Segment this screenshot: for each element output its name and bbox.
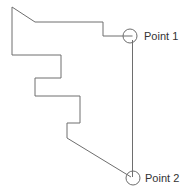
diagram-canvas	[0, 0, 186, 192]
point-1-label: Point 1	[144, 30, 178, 42]
point-2-label: Point 2	[145, 172, 179, 184]
outline-top	[12, 7, 124, 36]
outline-left-steps	[12, 7, 131, 177]
